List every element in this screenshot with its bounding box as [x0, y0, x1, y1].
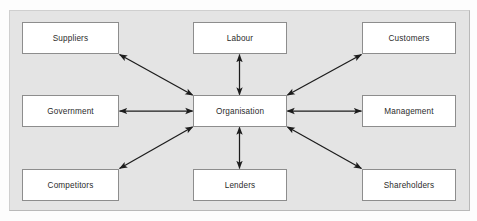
node-management[interactable]: Management — [362, 95, 456, 127]
node-label: Labour — [227, 34, 253, 43]
node-label: Management — [384, 107, 433, 116]
node-label: Customers — [389, 34, 430, 43]
node-label: Lenders — [225, 181, 256, 190]
diagram-canvas: Suppliers Labour Customers Government Or… — [0, 0, 477, 221]
node-label: Competitors — [48, 181, 94, 190]
node-label: Suppliers — [53, 34, 88, 43]
node-competitors[interactable]: Competitors — [22, 169, 119, 201]
node-organisation[interactable]: Organisation — [193, 95, 287, 127]
node-shareholders[interactable]: Shareholders — [362, 169, 456, 201]
node-label: Shareholders — [384, 181, 435, 190]
node-government[interactable]: Government — [22, 95, 119, 127]
node-label: Organisation — [216, 107, 264, 116]
node-labour[interactable]: Labour — [193, 22, 287, 54]
node-suppliers[interactable]: Suppliers — [22, 22, 119, 54]
node-label: Government — [47, 107, 94, 116]
node-lenders[interactable]: Lenders — [193, 169, 287, 201]
node-customers[interactable]: Customers — [362, 22, 456, 54]
